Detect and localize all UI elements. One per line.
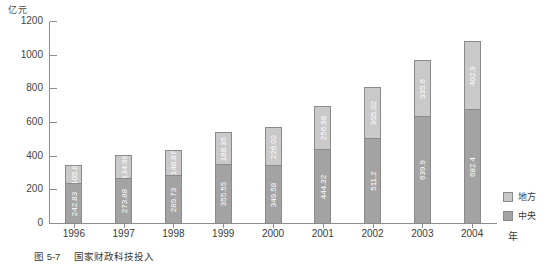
x-axis-tick-label: 1996 [63,228,85,239]
legend-swatch-icon [503,192,513,202]
bar-segment-central[interactable]: 511.2 [364,138,381,224]
bar-segment-local[interactable]: 402.9 [464,41,481,109]
legend-item[interactable]: 地方 [503,190,551,203]
bar-value-label-central: 355.55 [219,182,228,206]
bar-group[interactable]: 105.8242.83 [65,165,82,224]
bar-segment-local[interactable]: 305.02 [364,87,381,138]
x-axis-tick-label: 2002 [361,228,383,239]
bar-group[interactable]: 134.98273.88 [115,155,132,224]
x-axis-tick-label: 1997 [113,228,135,239]
legend-item-label: 地方 [518,190,536,203]
bar-value-label-central: 682.4 [468,157,477,177]
bar-segment-local[interactable]: 256.98 [314,106,331,149]
bar-segment-local[interactable]: 148.87 [165,150,182,175]
bar-segment-central[interactable]: 682.4 [464,109,481,224]
bar-value-label-local: 305.02 [368,101,377,125]
bar-segment-central[interactable]: 242.83 [65,183,82,224]
x-axis-tick-label: 1999 [212,228,234,239]
y-axis-tick-label: 200 [26,183,43,194]
bar-value-label-central: 639.9 [418,160,427,180]
bar-group[interactable]: 148.87289.73 [165,150,182,224]
bar-value-label-central: 511.2 [368,171,377,190]
x-axis-unit-label: 年 [508,228,518,243]
bar-group[interactable]: 188.35355.55 [215,132,232,224]
bar-segment-local[interactable]: 188.35 [215,132,232,164]
bar-value-label-local: 402.9 [468,66,477,86]
bar-segment-local[interactable]: 226.02 [265,127,282,165]
bar-value-label-central: 349.58 [269,182,278,206]
legend-swatch-icon [503,211,513,221]
figure-caption: 图 5-7国家财政科技投入 [34,249,154,263]
x-axis-tick-label: 1998 [162,228,184,239]
bar-group[interactable]: 305.02511.2 [364,87,381,224]
y-axis-tick-label: 1000 [21,49,43,60]
bar-value-label-central: 242.83 [69,191,78,215]
bar-value-label-local: 335.6 [418,79,427,99]
bar-value-label-local: 226.02 [269,134,278,158]
figure-national-fiscal-st-investment: 亿元 020040060080010001200 105.8242.83134.… [0,0,553,270]
bar-group[interactable]: 402.9682.4 [464,41,481,224]
bar-series-container: 105.8242.83134.98273.88148.87289.73188.3… [49,22,497,224]
bar-segment-local[interactable]: 335.6 [414,60,431,116]
bar-segment-central[interactable]: 289.73 [165,175,182,224]
y-axis-tick-label: 400 [26,150,43,161]
bar-value-label-central: 289.73 [169,187,178,211]
x-axis-tick-label: 2001 [312,228,334,239]
legend-item-label: 中央 [518,209,536,222]
legend-item[interactable]: 中央 [503,209,551,222]
y-axis-tick-label: 0 [37,217,43,228]
x-axis-labels: 199619971998199920002001200220032004 [49,228,497,242]
bar-value-label-local: 105.8 [69,165,78,183]
bar-group[interactable]: 226.02349.58 [265,127,282,224]
bar-value-label-central: 273.88 [119,189,128,213]
bar-segment-central[interactable]: 444.32 [314,149,331,224]
bar-value-label-local: 134.98 [119,155,128,178]
bar-segment-central[interactable]: 273.88 [115,178,132,224]
bar-segment-local[interactable]: 105.8 [65,165,82,183]
figure-caption-number: 图 5-7 [34,251,60,262]
bar-segment-central[interactable]: 639.9 [414,116,431,224]
x-axis-tick-label: 2004 [461,228,483,239]
figure-caption-title: 国家财政科技投入 [74,251,154,262]
bar-value-label-local: 148.87 [169,151,178,175]
x-axis-tick-label: 2000 [262,228,284,239]
bar-value-label-central: 444.32 [318,174,327,198]
bar-value-label-local: 188.35 [219,137,228,161]
y-axis-tick-label: 600 [26,116,43,127]
y-axis-tick-label: 1200 [21,15,43,26]
bar-value-label-local: 256.98 [318,116,327,140]
x-axis-tick-label: 2003 [411,228,433,239]
bar-group[interactable]: 256.98444.32 [314,106,331,224]
bar-segment-central[interactable]: 355.55 [215,164,232,224]
chart-legend: 地方中央 [503,190,551,228]
bar-segment-local[interactable]: 134.98 [115,155,132,178]
bar-segment-central[interactable]: 349.58 [265,165,282,224]
bar-group[interactable]: 335.6639.9 [414,60,431,224]
y-axis-tick-label: 800 [26,82,43,93]
plot-area: 020040060080010001200 105.8242.83134.982… [49,22,497,224]
